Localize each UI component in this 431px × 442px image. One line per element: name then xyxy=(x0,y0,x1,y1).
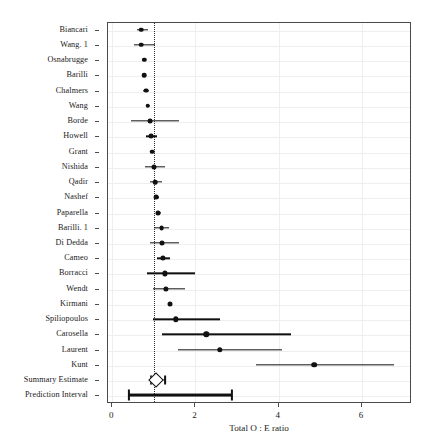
y-tick-label: Cameo xyxy=(64,254,88,262)
estimate-point-marker xyxy=(217,347,222,352)
estimate-point-marker xyxy=(139,43,144,48)
y-tick-label: Kirmani xyxy=(60,300,88,308)
estimate-point-marker xyxy=(151,164,156,169)
y-tick-mark xyxy=(95,273,99,274)
y-tick-mark xyxy=(95,228,99,229)
estimate-point-marker xyxy=(146,104,151,109)
confidence-interval-bar xyxy=(129,394,232,397)
y-tick-mark xyxy=(95,136,99,137)
y-tick-label: Chalmers xyxy=(56,86,88,94)
y-tick-mark xyxy=(95,106,99,107)
y-tick-label: Borracci xyxy=(59,269,88,277)
y-tick-label: Borde xyxy=(67,117,88,125)
y-tick-label: Biancari xyxy=(59,26,88,34)
y-tick-mark xyxy=(95,350,99,351)
y-tick-mark xyxy=(95,30,99,31)
estimate-point-marker xyxy=(159,240,164,245)
estimate-point-marker xyxy=(142,73,147,78)
y-tick-mark xyxy=(95,121,99,122)
y-tick-mark xyxy=(95,152,99,153)
estimate-point-marker xyxy=(173,316,178,321)
confidence-interval-bar xyxy=(162,334,292,335)
confidence-interval-bar xyxy=(134,44,155,45)
y-tick-mark xyxy=(95,395,99,396)
y-tick-mark xyxy=(95,289,99,290)
plot-data-overlay xyxy=(107,22,411,403)
estimate-point-marker xyxy=(153,180,158,185)
y-tick-label: Kunt xyxy=(71,361,88,369)
confidence-interval-bar xyxy=(256,364,394,365)
x-tick-label: 6 xyxy=(359,411,364,420)
y-tick-label: Prediction Interval xyxy=(25,391,88,399)
x-tick-mark xyxy=(361,403,362,407)
y-tick-mark xyxy=(95,304,99,305)
estimate-point-marker xyxy=(142,58,146,62)
estimate-point-marker xyxy=(149,134,154,139)
y-tick-label: Barilli xyxy=(66,71,88,79)
y-tick-label: Nishida xyxy=(62,163,88,171)
estimate-point-marker xyxy=(164,286,169,291)
x-tick-mark xyxy=(111,403,112,407)
y-tick-label: Barilli. 1 xyxy=(58,224,88,232)
confidence-interval-bar xyxy=(153,288,185,289)
estimate-point-marker xyxy=(159,225,164,230)
y-tick-mark xyxy=(95,213,99,214)
forest-plot-figure: BiancariWang. 1OsnabruggeBarilliChalmers… xyxy=(0,0,431,442)
y-tick-label: Laurent xyxy=(62,346,88,354)
confidence-interval-bar xyxy=(131,120,179,121)
y-tick-mark xyxy=(95,380,99,381)
y-tick-label: Carosella xyxy=(56,330,88,338)
estimate-point-marker xyxy=(167,301,172,306)
estimate-point-marker xyxy=(311,362,317,368)
estimate-point-marker xyxy=(150,149,155,154)
y-tick-mark xyxy=(95,197,99,198)
y-tick-label: Wendt xyxy=(66,285,88,293)
estimate-point-marker xyxy=(154,195,159,200)
estimate-point-marker xyxy=(139,27,144,32)
y-tick-label: Howell xyxy=(63,132,88,140)
estimate-point-marker xyxy=(156,210,161,215)
y-tick-mark xyxy=(95,334,99,335)
y-tick-label: Wang xyxy=(69,102,88,110)
x-tick-mark xyxy=(194,403,195,407)
x-tick-label: 2 xyxy=(192,411,197,420)
estimate-point-marker xyxy=(147,119,152,124)
y-tick-label: Grant xyxy=(69,147,88,155)
y-tick-mark xyxy=(95,243,99,244)
y-tick-label: Wang. 1 xyxy=(60,41,88,49)
confidence-interval-bar xyxy=(153,319,220,320)
y-tick-mark xyxy=(95,45,99,46)
estimate-point-marker xyxy=(163,271,168,276)
y-tick-mark xyxy=(95,182,99,183)
y-tick-label: Nashef xyxy=(64,193,88,201)
estimate-point-marker xyxy=(203,332,208,337)
y-tick-label: Summary Estimate xyxy=(24,376,88,384)
confidence-interval-cap xyxy=(231,390,233,401)
y-axis-labels: BiancariWang. 1OsnabruggeBarilliChalmers… xyxy=(0,0,99,442)
y-tick-label: Paparella xyxy=(57,208,88,216)
y-tick-label: Spiliopoulos xyxy=(45,315,88,323)
y-tick-mark xyxy=(95,91,99,92)
x-tick-label: 0 xyxy=(109,411,114,420)
y-tick-mark xyxy=(95,60,99,61)
confidence-interval-bar xyxy=(147,273,195,274)
confidence-interval-bar xyxy=(178,349,282,350)
estimate-point-marker xyxy=(143,88,148,93)
y-tick-mark xyxy=(95,365,99,366)
y-tick-mark xyxy=(95,319,99,320)
y-tick-label: Di Dedda xyxy=(56,239,88,247)
estimate-point-marker xyxy=(161,256,166,261)
x-tick-mark xyxy=(278,403,279,407)
y-tick-mark xyxy=(95,75,99,76)
y-tick-mark xyxy=(95,167,99,168)
y-tick-label: Qadir xyxy=(69,178,88,186)
confidence-interval-cap xyxy=(164,376,166,385)
x-tick-label: 4 xyxy=(275,411,280,420)
y-tick-label: Osnabrugge xyxy=(47,56,88,64)
confidence-interval-cap xyxy=(128,390,130,401)
y-tick-mark xyxy=(95,258,99,259)
x-axis-title: Total O : E ratio xyxy=(107,424,411,433)
